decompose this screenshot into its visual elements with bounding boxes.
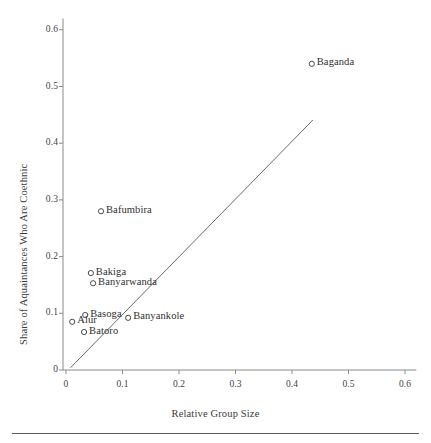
x-tick-label: 0.5 — [329, 379, 369, 389]
data-point-marker — [91, 281, 96, 286]
plot-canvas — [0, 0, 431, 443]
x-tick-label: 0 — [46, 379, 86, 389]
data-point-marker — [88, 270, 93, 275]
data-point-marker — [70, 319, 75, 324]
data-point-label: Batoro — [89, 325, 118, 336]
data-point-label: Bafumbira — [106, 204, 152, 215]
data-point-marker — [81, 329, 86, 334]
data-points-group — [70, 61, 315, 334]
data-point-marker — [98, 209, 103, 214]
data-point-label: Baganda — [317, 56, 354, 67]
x-tick-label: 0.3 — [216, 379, 256, 389]
data-point-label: Banyankole — [133, 310, 184, 321]
x-tick-label: 0.2 — [159, 379, 199, 389]
x-tick-label: 0.4 — [272, 379, 312, 389]
x-tick-label: 0.1 — [103, 379, 143, 389]
data-point-marker — [309, 61, 314, 66]
y-axis-title: Share of Aquaintances Who Are Coethnic — [18, 0, 34, 345]
x-tick-label: 0.6 — [385, 379, 425, 389]
data-point-marker — [126, 315, 131, 320]
x-axis-title: Relative Group Size — [0, 408, 431, 419]
data-point-label: Banyarwanda — [98, 276, 157, 287]
footer-rule — [12, 433, 419, 434]
y-tick-label: 0 — [24, 364, 58, 374]
scatter-plot-figure: 00.10.20.30.40.50.6 00.10.20.30.40.50.6 … — [0, 0, 431, 443]
